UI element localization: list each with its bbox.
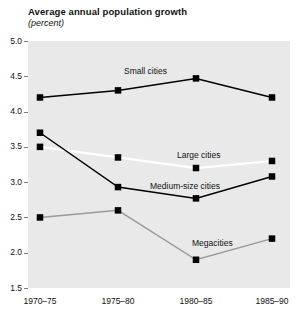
series-line [40, 210, 272, 259]
data-point-marker [269, 94, 276, 101]
data-point-marker [37, 129, 44, 136]
data-point-marker [37, 144, 44, 151]
data-point-marker [115, 207, 122, 214]
population-growth-chart: Average annual population growth (percen… [0, 0, 297, 324]
data-point-marker [193, 75, 200, 82]
series-label-megacities: Megacities [192, 238, 233, 248]
series-label-medium-size-cities: Medium-size cities [150, 181, 220, 191]
series-small-cities [37, 75, 276, 101]
data-point-marker [115, 87, 122, 94]
x-axis-tick-label: 1985–90 [255, 296, 288, 306]
data-point-marker [193, 195, 200, 202]
data-point-marker [269, 235, 276, 242]
data-point-marker [115, 154, 122, 161]
series-label-small-cities: Small cities [124, 66, 167, 76]
series-line [40, 78, 272, 97]
plot-lines-layer [0, 0, 297, 324]
series-label-large-cities: Large cities [177, 150, 220, 160]
data-point-marker [193, 257, 200, 264]
x-axis-tick-label: 1980–85 [179, 296, 212, 306]
data-point-marker [37, 94, 44, 101]
data-point-marker [115, 184, 122, 191]
data-point-marker [37, 214, 44, 221]
data-point-marker [193, 165, 200, 172]
data-point-marker [269, 158, 276, 165]
series-large-cities [37, 144, 276, 172]
x-axis-tick-label: 1970–75 [23, 296, 56, 306]
data-point-marker [269, 173, 276, 180]
series-megacities [37, 207, 276, 263]
x-axis-tick-label: 1975–80 [101, 296, 134, 306]
